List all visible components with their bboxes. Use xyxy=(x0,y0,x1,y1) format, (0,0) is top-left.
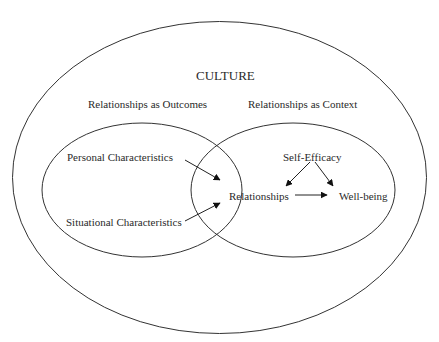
relationships-label: Relationships xyxy=(229,190,289,202)
personal-characteristics-label: Personal Characteristics xyxy=(67,151,173,163)
arrow-selfefficacy-to-relationships xyxy=(286,162,310,186)
outcomes-header: Relationships as Outcomes xyxy=(88,98,207,110)
diagram-canvas xyxy=(0,0,439,342)
outcomes-ellipse xyxy=(42,123,242,257)
context-header: Relationships as Context xyxy=(248,98,357,110)
arrow-situational-to-relationships xyxy=(185,203,220,221)
self-efficacy-label: Self-Efficacy xyxy=(283,151,341,163)
arrow-personal-to-relationships xyxy=(185,160,220,180)
culture-title: CULTURE xyxy=(196,70,255,82)
well-being-label: Well-being xyxy=(339,190,388,202)
arrow-selfefficacy-to-wellbeing xyxy=(315,162,333,186)
situational-characteristics-label: Situational Characteristics xyxy=(66,216,182,228)
